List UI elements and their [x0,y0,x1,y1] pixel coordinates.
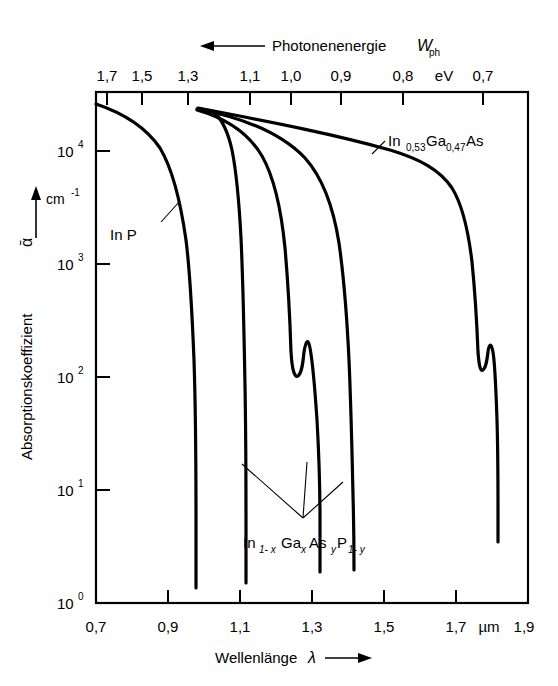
bottom-axis-title-text: Wellenlänge [215,649,297,666]
annotation-ingaas-as: As [466,132,484,149]
y-tick-label: 10 [57,143,74,160]
curve-ingaasp-2 [197,110,320,572]
y-tick-label: 10 [57,256,74,273]
bottom-axis-ticks [168,590,456,603]
annotation-ingaasp-as: As [309,534,327,551]
top-axis-title: Photonenenergie W ph [200,37,440,58]
y-tick-label: 10 [57,369,74,386]
annotation-ingaasp-p: P [337,534,347,551]
annotation-ingaasp-d-sub: 1- y [348,544,366,555]
bottom-tick-label: 1,3 [302,618,323,635]
annotation-ingaasp-b-sub: x [300,544,307,555]
y-unit-text: cm [46,191,65,207]
y-tick-exp: 2 [78,365,84,376]
y-axis-title: Absorptionskoeffizient ᾱ [18,186,41,460]
y-tick-label: 10 [57,482,74,499]
y-unit-exp: -1 [71,187,80,198]
y-tick-exp: 0 [78,591,84,602]
bottom-axis-title: Wellenlänge λ [215,649,372,666]
annotation-inp: In P [110,201,180,243]
annotation-inp-text: In P [110,226,137,243]
top-tick-label: 0,8 [393,67,414,84]
photon-energy-symbol-sub: ph [429,47,440,58]
bottom-tick-label: 1,9 [514,618,535,635]
top-tick-label: 1,5 [132,67,153,84]
y-axis-ticks [96,151,110,490]
wavelength-symbol: λ [307,649,316,666]
annotation-ingaasp-c-sub: y [330,544,337,555]
curve-ingaasp-1 [215,113,246,583]
top-axis-ticks [107,92,483,105]
annotation-ingaas-sub1: 0,53 [406,142,426,153]
y-tick-label: 10 [57,595,74,612]
annotation-ingaas-sub2: 0,47 [446,142,466,153]
y-axis-title-symbol: ᾱ [18,238,35,247]
top-tick-label: 1,7 [97,67,118,84]
absorption-coefficient-chart: Photonenenergie W ph 1,7 1,5 1,3 1,1 1,0… [0,0,558,686]
annotation-ingaasp-in: In [243,534,256,551]
annotation-ingaas-ga: Ga [426,132,447,149]
top-tick-label: 0,7 [473,67,494,84]
annotation-ingaasp-ga: Ga [281,534,302,551]
y-axis-title-text: Absorptionskoeffizient [18,313,35,460]
bottom-tick-label: 1,7 [446,618,467,635]
annotation-ingaasp: In 1- x Ga x As y P 1- y [242,462,366,555]
curve-ingaasp-3 [197,109,354,570]
bottom-axis-tick-labels: 0,7 0,9 1,1 1,3 1,5 1,7 µm 1,9 [86,618,535,635]
top-axis-tick-labels: 1,7 1,5 1,3 1,1 1,0 0,9 0,8 eV 0,7 [97,67,494,84]
annotation-ingaasp-a-sub: 1- x [259,544,277,555]
top-tick-label: 1,0 [281,67,302,84]
y-tick-exp: 3 [78,252,84,263]
x-axis-unit-label: µm [478,618,499,635]
y-axis-tick-labels: 10 4 10 3 10 2 10 1 10 0 [57,139,84,612]
top-axis-title-text: Photonenenergie [272,37,386,54]
bottom-tick-label: 0,9 [158,618,179,635]
annotation-ingaas-in: In [388,132,401,149]
bottom-tick-label: 0,7 [86,618,107,635]
top-tick-label: 0,9 [331,67,352,84]
top-tick-label: 1,3 [178,67,199,84]
top-axis-unit-label: eV [435,67,453,84]
bottom-tick-label: 1,5 [374,618,395,635]
y-tick-exp: 1 [78,478,84,489]
y-tick-exp: 4 [78,139,84,150]
bottom-tick-label: 1,1 [230,618,251,635]
y-axis-unit: cm -1 [46,187,80,207]
top-tick-label: 1,1 [240,67,261,84]
curve-inp [96,104,196,588]
